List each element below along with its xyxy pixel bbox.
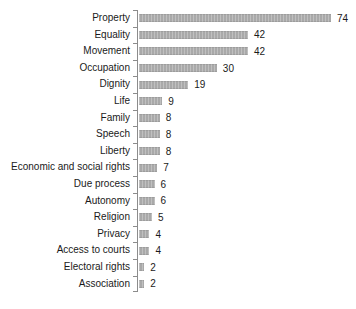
category-label: Autonomy <box>0 193 137 210</box>
chart-row: Access to courts4 <box>0 242 356 259</box>
category-label: Occupation <box>0 60 137 77</box>
horizontal-bar-chart: Property74Equality42Movement42Occupation… <box>0 10 356 292</box>
category-label: Association <box>0 276 137 293</box>
chart-row: Economic and social rights7 <box>0 159 356 176</box>
category-label: Due process <box>0 176 137 193</box>
value-label: 42 <box>254 29 265 40</box>
value-label: 8 <box>166 112 172 123</box>
bar <box>139 180 155 188</box>
plot-area: 4 <box>137 226 356 243</box>
bar <box>139 197 155 205</box>
plot-area: 9 <box>137 93 356 110</box>
bar <box>139 81 188 89</box>
chart-canvas: Property74Equality42Movement42Occupation… <box>0 0 356 309</box>
plot-area: 19 <box>137 76 356 93</box>
plot-area: 74 <box>137 10 356 27</box>
bar <box>139 213 152 221</box>
category-label: Economic and social rights <box>0 159 137 176</box>
chart-row: Electoral rights2 <box>0 259 356 276</box>
plot-area: 8 <box>137 126 356 143</box>
chart-row: Liberty8 <box>0 143 356 160</box>
plot-area: 42 <box>137 27 356 44</box>
value-label: 7 <box>163 162 169 173</box>
bar <box>139 14 331 22</box>
bar <box>139 230 149 238</box>
chart-row: Speech8 <box>0 126 356 143</box>
chart-row: Movement42 <box>0 43 356 60</box>
chart-row: Equality42 <box>0 27 356 44</box>
value-label: 8 <box>166 146 172 157</box>
value-label: 4 <box>155 229 161 240</box>
bar <box>139 114 160 122</box>
value-label: 74 <box>337 13 348 24</box>
value-label: 6 <box>161 179 167 190</box>
value-label: 19 <box>194 79 205 90</box>
chart-row: Dignity19 <box>0 76 356 93</box>
chart-row: Due process6 <box>0 176 356 193</box>
category-label: Privacy <box>0 226 137 243</box>
plot-area: 6 <box>137 176 356 193</box>
plot-area: 6 <box>137 193 356 210</box>
category-label: Religion <box>0 209 137 226</box>
category-label: Life <box>0 93 137 110</box>
chart-row: Life9 <box>0 93 356 110</box>
plot-area: 2 <box>137 259 356 276</box>
bar <box>139 31 248 39</box>
bar <box>139 247 149 255</box>
bar <box>139 97 162 105</box>
bar <box>139 64 217 72</box>
value-label: 9 <box>168 96 174 107</box>
plot-area: 5 <box>137 209 356 226</box>
chart-row: Association2 <box>0 276 356 293</box>
plot-area: 30 <box>137 60 356 77</box>
plot-area: 4 <box>137 242 356 259</box>
category-label: Dignity <box>0 76 137 93</box>
bar <box>139 47 248 55</box>
value-label: 2 <box>150 278 156 289</box>
category-label: Property <box>0 10 137 27</box>
category-label: Electoral rights <box>0 259 137 276</box>
value-label: 6 <box>161 195 167 206</box>
bar <box>139 164 157 172</box>
bar <box>139 263 144 271</box>
value-label: 5 <box>158 212 164 223</box>
category-label: Liberty <box>0 143 137 160</box>
chart-row: Privacy4 <box>0 226 356 243</box>
plot-area: 8 <box>137 110 356 127</box>
value-label: 4 <box>155 245 161 256</box>
chart-row: Autonomy6 <box>0 193 356 210</box>
category-label: Speech <box>0 126 137 143</box>
category-label: Equality <box>0 27 137 44</box>
bar <box>139 130 160 138</box>
chart-row: Family8 <box>0 110 356 127</box>
category-label: Movement <box>0 43 137 60</box>
value-label: 2 <box>150 262 156 273</box>
value-label: 42 <box>254 46 265 57</box>
bar <box>139 147 160 155</box>
chart-row: Religion5 <box>0 209 356 226</box>
category-label: Family <box>0 110 137 127</box>
plot-area: 7 <box>137 159 356 176</box>
value-label: 30 <box>223 63 234 74</box>
chart-rows: Property74Equality42Movement42Occupation… <box>0 10 356 292</box>
value-label: 8 <box>166 129 172 140</box>
chart-row: Property74 <box>0 10 356 27</box>
category-label: Access to courts <box>0 242 137 259</box>
plot-area: 8 <box>137 143 356 160</box>
bar <box>139 280 144 288</box>
chart-row: Occupation30 <box>0 60 356 77</box>
plot-area: 42 <box>137 43 356 60</box>
plot-area: 2 <box>137 276 356 293</box>
